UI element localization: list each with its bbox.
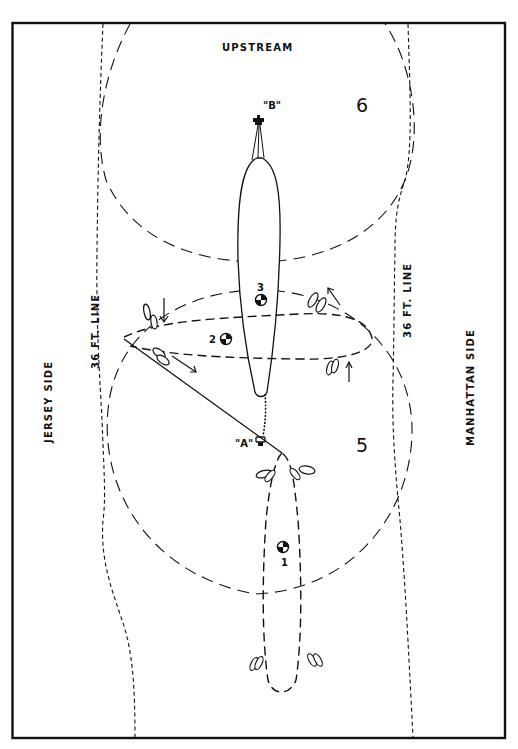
depth-line-right-label: 36 FT. LINE (402, 263, 413, 338)
anchor-a-label: "A" (235, 438, 253, 449)
arrow-down-icon (160, 298, 168, 322)
position-3-label: 3 (257, 282, 264, 293)
arrow-down-right-icon (172, 356, 196, 372)
ship-at-anchor-b (238, 125, 280, 397)
arrow-up-icon (346, 362, 352, 382)
anchor-buoy-b (253, 115, 264, 125)
manhattan-side-label: MANHATTAN SIDE (465, 329, 476, 446)
swing-path-1 (263, 453, 301, 692)
position-marker-1 (278, 542, 289, 553)
anchor-buoy-a (256, 437, 265, 446)
anchor-chain (263, 394, 266, 436)
river-anchorage-diagram: UPSTREAM "B" 6 3 2 "A" 5 1 JERSEY SIDE 3… (0, 0, 518, 749)
circle-5-label: 5 (356, 434, 368, 456)
position-marker-3 (256, 295, 267, 306)
position-1-label: 1 (281, 557, 288, 568)
depth-line-right (393, 24, 413, 737)
arrow-up-right-icon (328, 288, 340, 305)
position-2-label: 2 (209, 334, 216, 345)
upstream-label: UPSTREAM (222, 42, 293, 53)
depth-line-left (97, 24, 135, 737)
circle-6-label: 6 (356, 94, 368, 116)
propeller-marks (142, 291, 339, 671)
anchor-b-label: "B" (263, 100, 281, 111)
depth-line-left-label: 36 FT. LINE (90, 294, 101, 369)
position-marker-2 (221, 334, 232, 345)
jersey-side-label: JERSEY SIDE (43, 361, 54, 444)
